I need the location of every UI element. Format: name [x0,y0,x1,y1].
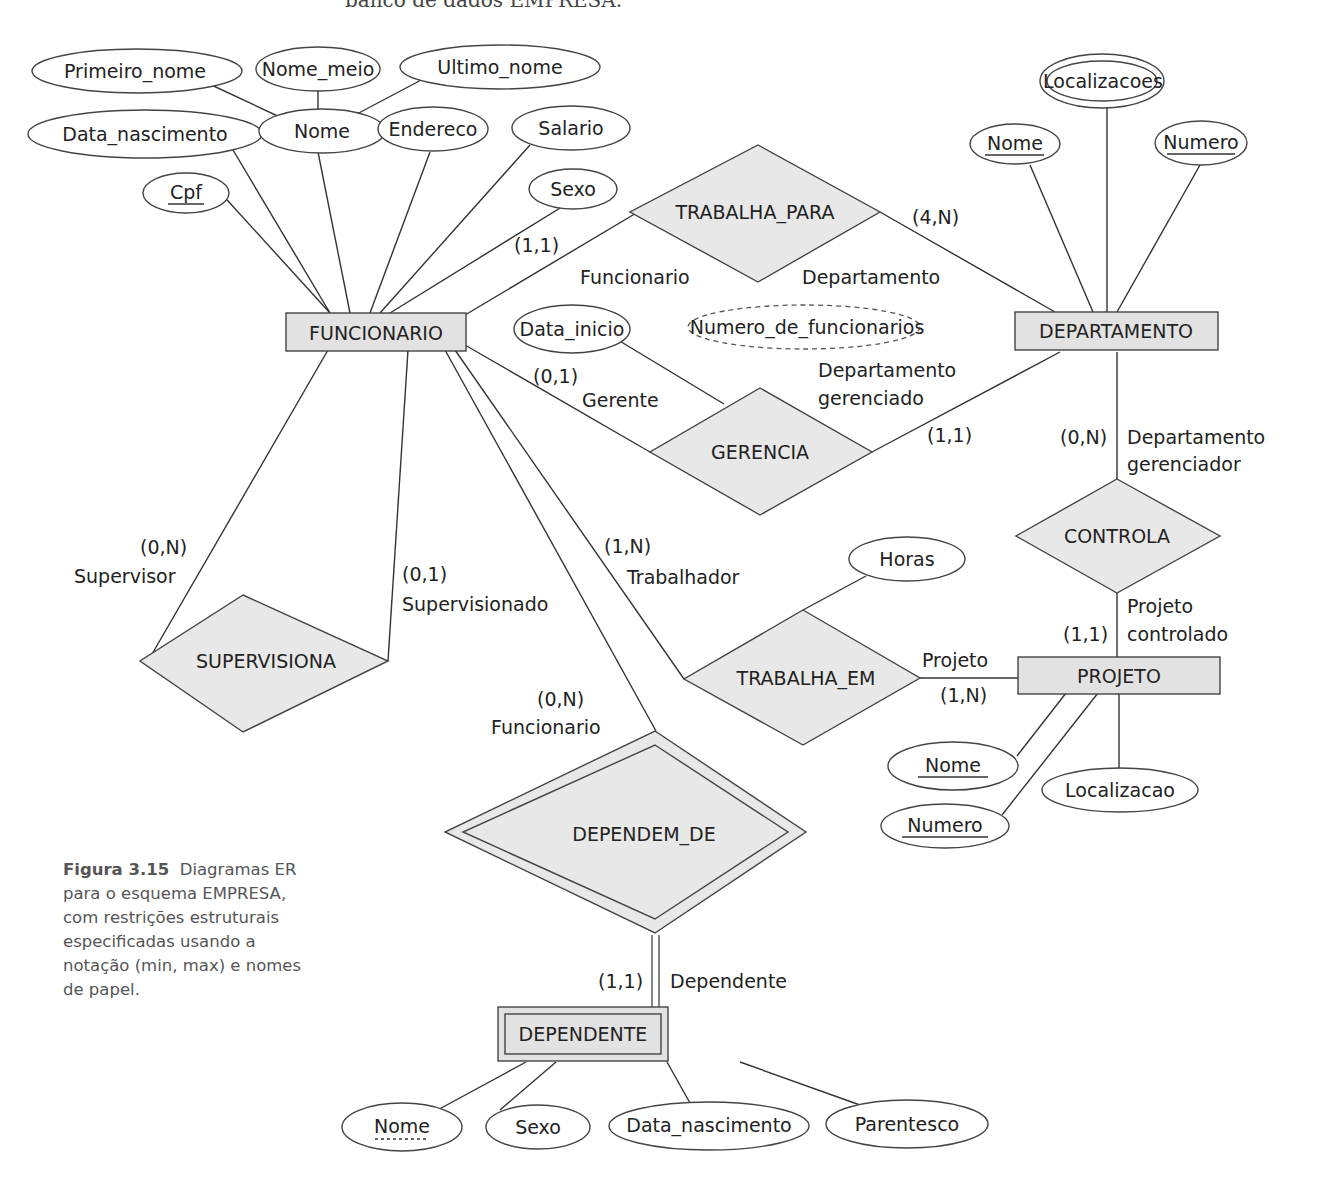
attribute-primeiro-nome[interactable]: Primeiro_nome [32,49,242,93]
role-controla-projeto-line1: Projeto [1127,595,1193,617]
relationship-trabalha-para-label: TRABALHA_PARA [674,201,834,224]
role-supervisiona-supervisionado: Supervisionado [402,593,548,615]
svg-text:Nome: Nome [294,120,350,142]
attribute-dependente-nome-partial-key[interactable]: Nome [342,1103,462,1151]
attribute-parentesco[interactable]: Parentesco [826,1100,988,1148]
attribute-salario[interactable]: Salario [512,106,630,150]
role-supervisiona-supervisor: Supervisor [74,565,176,587]
attribute-endereco[interactable]: Endereco [378,107,488,151]
svg-text:Sexo: Sexo [515,1116,561,1138]
entity-dependente-weak[interactable]: DEPENDENTE [498,1007,668,1061]
svg-text:Parentesco: Parentesco [855,1113,959,1135]
role-dependem-de-funcionario: Funcionario [491,716,601,738]
attribute-numero-de-funcionarios-derived[interactable]: Numero_de_funcionarios [688,305,924,349]
role-trabalha-para-departamento: Departamento [802,266,940,288]
attribute-data-nascimento[interactable]: Data_nascimento [28,110,262,158]
attribute-localizacoes-multivalued[interactable]: Localizacoes [1040,54,1164,108]
svg-text:Nome: Nome [925,754,981,776]
entity-projeto-label: PROJETO [1077,665,1161,687]
constraint-trabalha-para-departamento: (4,N) [912,206,959,228]
svg-text:Numero_de_funcionarios: Numero_de_funcionarios [690,316,925,339]
attribute-nome-composite[interactable]: Nome [259,109,385,153]
relationship-trabalha-em[interactable]: TRABALHA_EM [684,610,920,745]
svg-text:Nome: Nome [374,1115,430,1137]
relationship-controla-label: CONTROLA [1064,525,1170,547]
svg-text:Ultimo_nome: Ultimo_nome [437,56,562,79]
attribute-sexo[interactable]: Sexo [529,169,617,209]
role-controla-projeto-line2: controlado [1127,623,1228,645]
entity-funcionario[interactable]: FUNCIONARIO [286,313,466,351]
svg-text:Data_inicio: Data_inicio [520,318,625,341]
svg-text:Horas: Horas [879,548,934,570]
attribute-projeto-nome-key[interactable]: Nome [888,742,1018,790]
constraint-supervisiona-supervisionado: (0,1) [402,563,447,585]
constraint-trabalha-em-projeto: (1,N) [940,684,987,706]
entity-funcionario-label: FUNCIONARIO [309,322,443,344]
relationship-supervisiona[interactable]: SUPERVISIONA [140,595,388,732]
role-gerencia-departamento-line2: gerenciado [818,387,924,409]
svg-text:Localizacoes: Localizacoes [1043,70,1163,92]
attribute-projeto-numero-key[interactable]: Numero [881,804,1009,848]
attribute-data-inicio[interactable]: Data_inicio [514,305,630,353]
role-trabalha-em-trabalhador: Trabalhador [626,566,740,588]
svg-text:Numero: Numero [907,814,982,836]
svg-text:Cpf: Cpf [170,181,203,203]
role-dependem-de-dependente: Dependente [670,970,787,992]
role-trabalha-para-funcionario: Funcionario [580,266,690,288]
constraint-gerencia-gerente: (0,1) [533,365,578,387]
constraint-supervisiona-supervisor: (0,N) [140,536,187,558]
constraint-trabalha-em-trabalhador: (1,N) [604,535,651,557]
attribute-localizacao[interactable]: Localizacao [1042,768,1198,812]
figure-label: Figura 3.15 [63,860,169,879]
constraint-controla-departamento: (0,N) [1060,426,1107,448]
attribute-dependente-data-nascimento[interactable]: Data_nascimento [609,1102,809,1150]
role-controla-departamento-line2: gerenciador [1127,453,1241,475]
attribute-cpf-key[interactable]: Cpf [143,173,229,213]
svg-text:Localizacao: Localizacao [1065,779,1175,801]
constraint-dependem-de-dependente: (1,1) [598,970,643,992]
role-trabalha-em-projeto: Projeto [922,649,988,671]
attribute-ultimo-nome[interactable]: Ultimo_nome [400,45,600,89]
attribute-dependente-sexo[interactable]: Sexo [486,1105,590,1149]
relationship-controla[interactable]: CONTROLA [1016,479,1220,593]
svg-text:Nome: Nome [987,132,1043,154]
svg-text:Salario: Salario [538,117,603,139]
svg-text:Data_nascimento: Data_nascimento [626,1114,792,1137]
svg-text:Primeiro_nome: Primeiro_nome [64,60,206,83]
relationship-trabalha-em-label: TRABALHA_EM [736,667,876,690]
entity-projeto[interactable]: PROJETO [1018,657,1220,694]
attribute-horas[interactable]: Horas [849,537,965,581]
role-gerencia-departamento-line1: Departamento [818,359,956,381]
constraint-controla-projeto: (1,1) [1063,623,1108,645]
attribute-departamento-nome-key[interactable]: Nome [970,124,1060,164]
svg-text:Endereco: Endereco [389,118,478,140]
svg-text:Data_nascimento: Data_nascimento [62,123,228,146]
svg-text:Nome_meio: Nome_meio [262,58,375,81]
entity-departamento[interactable]: DEPARTAMENTO [1015,312,1218,350]
relationship-trabalha-para[interactable]: TRABALHA_PARA [630,145,880,282]
constraint-gerencia-departamento: (1,1) [927,424,972,446]
svg-text:Sexo: Sexo [550,178,596,200]
constraint-trabalha-para-funcionario: (1,1) [514,234,559,256]
attribute-departamento-numero-key[interactable]: Numero [1155,121,1247,165]
er-diagram: FUNCIONARIO DEPARTAMENTO PROJETO DEPENDE… [0,0,1334,1202]
figure-caption-text: Diagramas ER para o esquema EMPRESA, com… [63,860,301,999]
role-controla-departamento-line1: Departamento [1127,426,1265,448]
relationship-dependem-de-label: DEPENDEM_DE [572,823,715,846]
entity-departamento-label: DEPARTAMENTO [1039,320,1193,342]
svg-text:Numero: Numero [1163,131,1238,153]
attribute-nome-meio[interactable]: Nome_meio [256,47,380,91]
entity-dependente-label: DEPENDENTE [519,1023,648,1045]
constraint-dependem-de-funcionario: (0,N) [537,688,584,710]
relationship-supervisiona-label: SUPERVISIONA [196,650,336,672]
relationship-dependem-de-identifying[interactable]: DEPENDEM_DE [445,731,806,933]
figure-caption: Figura 3.15 Diagramas ER para o esquema … [63,858,323,1002]
role-gerencia-gerente: Gerente [582,389,659,411]
relationship-gerencia-label: GERENCIA [711,441,809,463]
